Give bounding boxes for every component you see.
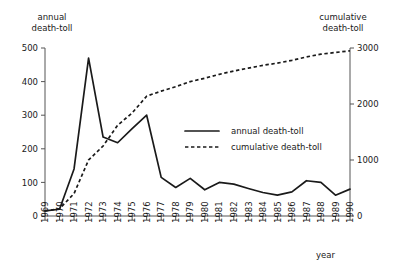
x-tick-label: 1986 — [287, 201, 297, 223]
chart-plot-area: 0100200300400500 0100020003000 196919701… — [0, 0, 394, 272]
right-tick-label: 2000 — [357, 99, 379, 109]
right-axis-ticks: 0100020003000 — [350, 43, 379, 221]
x-tick-label: 1974 — [113, 201, 123, 223]
right-tick-label: 3000 — [357, 43, 379, 53]
right-axis: 0100020003000 — [350, 43, 379, 221]
x-tick-label: 1983 — [244, 201, 254, 223]
right-tick-label: 1000 — [357, 155, 379, 165]
right-tick-label: 0 — [357, 211, 362, 221]
x-tick-label: 1976 — [142, 201, 152, 223]
x-axis: 1969197019711972197319741975197619771978… — [40, 201, 355, 223]
left-tick-label: 100 — [22, 178, 38, 188]
legend-label: cumulative death-toll — [231, 142, 322, 152]
x-tick-label: 1971 — [69, 201, 79, 223]
x-tick-label: 1978 — [171, 201, 181, 223]
left-tick-label: 200 — [22, 144, 38, 154]
x-tick-label: 1969 — [40, 201, 50, 223]
x-axis-ticks: 1969197019711972197319741975197619771978… — [40, 201, 355, 223]
x-tick-label: 1982 — [229, 201, 239, 223]
x-tick-label: 1975 — [127, 201, 137, 223]
left-axis-ticks: 0100200300400500 — [22, 43, 45, 221]
left-axis: 0100200300400500 — [22, 43, 45, 221]
x-tick-label: 1985 — [273, 201, 283, 223]
x-tick-label: 1987 — [302, 201, 312, 223]
x-tick-label: 1988 — [316, 201, 326, 223]
left-tick-label: 300 — [22, 110, 38, 120]
x-tick-label: 1973 — [98, 201, 108, 223]
x-tick-label: 1977 — [156, 201, 166, 223]
x-tick-label: 1981 — [214, 201, 224, 223]
x-tick-label: 1990 — [345, 201, 355, 223]
x-tick-label: 1980 — [200, 201, 210, 223]
x-tick-label: 1972 — [84, 201, 94, 223]
x-tick-label: 1979 — [185, 201, 195, 223]
legend-label: annual death-toll — [231, 126, 304, 136]
series-line-annual-death-toll — [45, 58, 350, 211]
x-tick-label: 1984 — [258, 201, 268, 223]
left-tick-label: 400 — [22, 77, 38, 87]
left-tick-label: 500 — [22, 43, 38, 53]
left-tick-label: 0 — [33, 211, 38, 221]
chart-legend: annual death-tollcumulative death-toll — [185, 126, 322, 152]
chart-figure: annual death-toll cumulative death-toll … — [0, 0, 394, 272]
x-tick-label: 1989 — [331, 201, 341, 223]
